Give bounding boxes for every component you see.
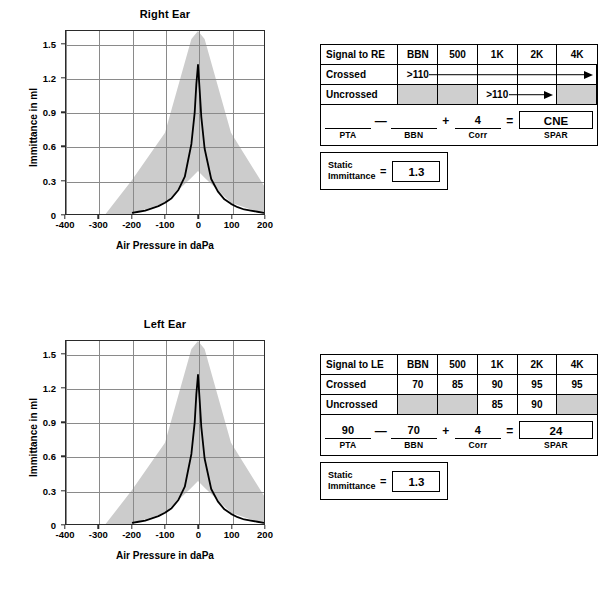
y-tick-label: 0.9 bbox=[10, 417, 56, 428]
x-tick-mark bbox=[198, 215, 199, 219]
corr-caption: Corr bbox=[468, 439, 487, 452]
spar-result-caption: SPAR bbox=[544, 129, 568, 142]
y-tick-label: 1.2 bbox=[10, 382, 56, 393]
x-tick-mark bbox=[131, 525, 132, 529]
corr-value[interactable]: 4 bbox=[455, 423, 501, 439]
reflex-row-uncrossed: Uncrossed>110 bbox=[321, 85, 597, 105]
spar-equals-operator: = bbox=[505, 424, 515, 452]
pta-caption: PTA bbox=[339, 129, 356, 142]
reflex-row-label: Uncrossed bbox=[321, 85, 398, 104]
spar-plus-operator: + bbox=[441, 114, 451, 142]
y-tick-label: 0.9 bbox=[10, 107, 56, 118]
y-tick-label: 0.6 bbox=[10, 141, 56, 152]
reflex-cell-crossed-4k[interactable]: 95 bbox=[557, 375, 597, 394]
reflex-cell-uncrossed-bbn[interactable] bbox=[398, 85, 438, 104]
chart-title-left: Left Ear bbox=[65, 318, 265, 330]
reflex-row-uncrossed: Uncrossed8590 bbox=[321, 395, 597, 415]
y-tick-mark bbox=[61, 43, 65, 44]
reflex-cell-uncrossed-500[interactable] bbox=[438, 85, 478, 104]
reflex-cell-uncrossed-2k[interactable]: 90 bbox=[518, 395, 558, 414]
frequency-header-2k: 2K bbox=[518, 355, 558, 374]
corr-term: 4Corr bbox=[455, 113, 501, 142]
y-tick-mark bbox=[61, 77, 65, 78]
plot-frame-right bbox=[65, 30, 265, 215]
bbn-value[interactable] bbox=[391, 113, 437, 129]
reflex-cell-uncrossed-500[interactable] bbox=[438, 395, 478, 414]
frequency-header-1k: 1K bbox=[478, 355, 518, 374]
corr-value[interactable]: 4 bbox=[455, 113, 501, 129]
bbn-caption: BBN bbox=[404, 129, 423, 142]
static-equals-left: = bbox=[380, 475, 386, 487]
x-tick-label: 200 bbox=[245, 529, 285, 540]
static-immittance-value-left[interactable]: 1.3 bbox=[392, 471, 440, 492]
spar-minus-operator: — bbox=[375, 114, 387, 142]
spar-plus-operator: + bbox=[441, 424, 451, 452]
frequency-header-bbn: BBN bbox=[398, 355, 438, 374]
reflex-table-left: Signal to LEBBN5001K2K4KCrossed708590959… bbox=[320, 354, 598, 456]
reflex-arrow-line bbox=[429, 74, 586, 76]
static-label-line2: Immittance bbox=[328, 171, 376, 181]
reflex-table-header-row: Signal to REBBN5001K2K4K bbox=[321, 45, 597, 65]
signal-to-ear-label: Signal to RE bbox=[321, 45, 398, 64]
y-tick-label: 1.5 bbox=[10, 38, 56, 49]
x-axis-title-right: Air Pressure in daPa bbox=[65, 240, 265, 251]
x-tick-mark bbox=[164, 215, 165, 219]
frequency-header-4k: 4K bbox=[557, 45, 597, 64]
bbn-term: BBN bbox=[391, 113, 437, 142]
frequency-header-bbn: BBN bbox=[398, 45, 438, 64]
y-tick-mark bbox=[61, 353, 65, 354]
pta-value[interactable]: 90 bbox=[325, 423, 371, 439]
reflex-cell-uncrossed-4k[interactable] bbox=[557, 395, 597, 414]
x-tick-mark bbox=[64, 525, 65, 529]
reflex-cell-crossed-1k[interactable]: 90 bbox=[478, 375, 518, 394]
pta-term: PTA bbox=[325, 113, 371, 142]
corr-term: 4Corr bbox=[455, 423, 501, 452]
reflex-cell-crossed-2k[interactable]: 95 bbox=[518, 375, 558, 394]
static-label-line1: Static bbox=[328, 470, 353, 480]
x-tick-mark bbox=[98, 215, 99, 219]
static-immittance-value-right[interactable]: 1.3 bbox=[392, 161, 440, 182]
spar-minus-operator: — bbox=[375, 424, 387, 452]
reflex-cell-uncrossed-bbn[interactable] bbox=[398, 395, 438, 414]
reflex-cell-uncrossed-1k[interactable]: 85 bbox=[478, 395, 518, 414]
reflex-row-label: Crossed bbox=[321, 65, 398, 84]
x-tick-mark bbox=[198, 525, 199, 529]
corr-caption: Corr bbox=[468, 129, 487, 142]
bbn-term: 70BBN bbox=[391, 423, 437, 452]
spar-result-value[interactable]: 24 bbox=[519, 421, 593, 439]
x-tick-mark bbox=[131, 215, 132, 219]
static-immittance-right: Static Immittance = 1.3 bbox=[320, 152, 448, 190]
reflex-row-crossed: Crossed>110 bbox=[321, 65, 597, 85]
reflex-cell-crossed-500[interactable]: 85 bbox=[438, 375, 478, 394]
spar-result-value[interactable]: CNE bbox=[519, 111, 593, 129]
y-tick-mark bbox=[61, 180, 65, 181]
chart-right-ear: Right Ear Immittance in ml Air Pressure … bbox=[8, 8, 308, 300]
y-tick-label: 0.3 bbox=[10, 175, 56, 186]
x-tick-mark bbox=[164, 525, 165, 529]
x-tick-label: 200 bbox=[245, 219, 285, 230]
spar-equals-operator: = bbox=[505, 114, 515, 142]
y-tick-mark bbox=[61, 146, 65, 147]
frequency-header-500: 500 bbox=[438, 355, 478, 374]
reflex-row-crossed: Crossed7085909595 bbox=[321, 375, 597, 395]
reflex-cell-uncrossed-4k[interactable] bbox=[557, 85, 597, 104]
pta-value[interactable] bbox=[325, 113, 371, 129]
y-tick-mark bbox=[61, 422, 65, 423]
pta-caption: PTA bbox=[339, 439, 356, 452]
reflex-arrow-line bbox=[509, 94, 546, 96]
tympanogram-curve bbox=[66, 341, 264, 524]
frequency-header-2k: 2K bbox=[518, 45, 558, 64]
y-tick-mark bbox=[61, 456, 65, 457]
static-equals-right: = bbox=[380, 165, 386, 177]
reflex-table-header-row: Signal to LEBBN5001K2K4K bbox=[321, 355, 597, 375]
reflex-table-right: Signal to REBBN5001K2K4KCrossed>110Uncro… bbox=[320, 44, 598, 146]
chart-left-ear: Left Ear Immittance in ml Air Pressure i… bbox=[8, 318, 308, 610]
bbn-value[interactable]: 70 bbox=[391, 423, 437, 439]
reflex-cell-crossed-bbn[interactable]: 70 bbox=[398, 375, 438, 394]
tympanogram-curve bbox=[66, 31, 264, 214]
frequency-header-500: 500 bbox=[438, 45, 478, 64]
frequency-header-4k: 4K bbox=[557, 355, 597, 374]
reflex-arrow-head-icon bbox=[544, 91, 553, 99]
static-immittance-left: Static Immittance = 1.3 bbox=[320, 462, 448, 500]
y-tick-label: 1.5 bbox=[10, 348, 56, 359]
